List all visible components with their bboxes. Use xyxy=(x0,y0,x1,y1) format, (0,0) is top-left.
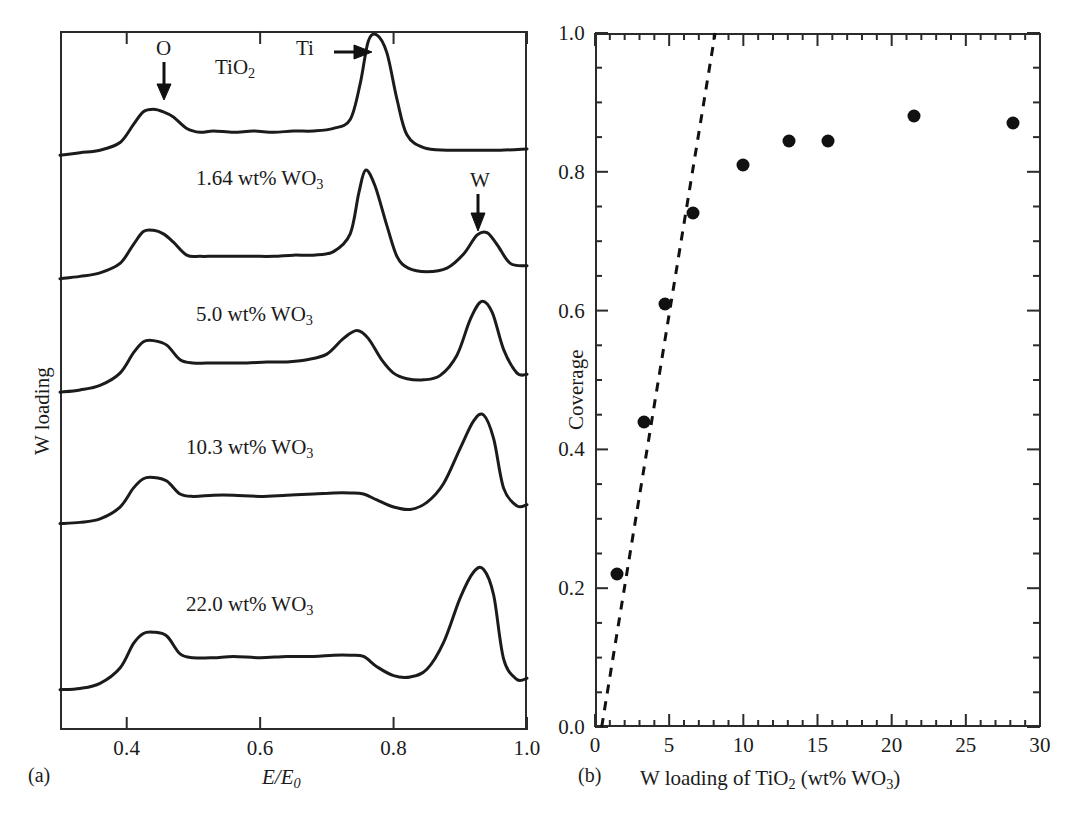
figure-root: O Ti W TiO2 1.64 wt% WO3 5.0 wt% WO3 10.… xyxy=(0,0,1070,824)
panel-a-xlabel: E/E0 xyxy=(262,765,301,792)
trace-label-text: TiO xyxy=(215,55,248,79)
panel-b-ytick-label: 1.0 xyxy=(558,21,585,46)
trace-label-text: 10.3 wt% WO xyxy=(186,435,306,459)
data-point xyxy=(686,207,699,220)
data-point xyxy=(737,158,750,171)
trace-label-sub: 3 xyxy=(316,176,323,192)
panel-a-plot-frame xyxy=(60,31,527,730)
panel-a-xtick-label: 0.6 xyxy=(247,736,274,761)
trace-label-sub: 3 xyxy=(306,445,313,461)
panel-b-ytick-label: 0.0 xyxy=(558,715,585,740)
data-point xyxy=(907,110,920,123)
panel-b-xlabel: W loading of TiO2 (wt% WO3) xyxy=(640,766,900,793)
panel-a-tag: (a) xyxy=(28,764,50,787)
trace-label-220: 22.0 wt% WO3 xyxy=(186,592,314,619)
panel-b-xtick-label: 5 xyxy=(664,733,675,758)
panel-b: 0.00.20.40.60.81.0 051015202530 Coverage… xyxy=(540,0,1070,800)
annotation-w-label: W xyxy=(470,168,490,193)
data-point xyxy=(658,297,671,310)
data-point xyxy=(821,134,834,147)
annotation-ti-label: Ti xyxy=(296,36,314,61)
trace-label-tio2: TiO2 xyxy=(215,55,255,82)
panel-b-ytick-label: 0.2 xyxy=(558,576,585,601)
panel-b-xlabel-sub1: 2 xyxy=(788,776,795,792)
trace-label-text: 22.0 wt% WO xyxy=(186,592,306,616)
panel-b-xtick-label: 20 xyxy=(881,733,902,758)
panel-b-ytick-label: 0.8 xyxy=(558,159,585,184)
data-point xyxy=(611,568,624,581)
panel-b-xtick-label: 15 xyxy=(807,733,828,758)
trace-label-text: 1.64 wt% WO xyxy=(196,166,316,190)
trace-label-164: 1.64 wt% WO3 xyxy=(196,166,324,193)
trace-label-sub: 3 xyxy=(306,602,313,618)
trace-label-sub: 2 xyxy=(248,65,255,81)
panel-b-xlabel-part3: ) xyxy=(893,766,900,790)
trace-label-text: 5.0 wt% WO xyxy=(196,302,306,326)
panel-b-xtick-label: 10 xyxy=(733,733,754,758)
panel-a-xtick-label: 0.4 xyxy=(113,736,140,761)
trace-label-50: 5.0 wt% WO3 xyxy=(196,302,313,329)
panel-a-xtick-label: 0.8 xyxy=(380,736,407,761)
data-point xyxy=(1007,117,1020,130)
panel-b-plot-frame xyxy=(595,33,1041,727)
panel-b-tag: (b) xyxy=(578,764,601,787)
data-point xyxy=(783,134,796,147)
panel-b-xtick-label: 0 xyxy=(590,733,601,758)
data-point xyxy=(637,415,650,428)
panel-b-ytick-label: 0.4 xyxy=(558,437,585,462)
panel-b-xtick-label: 25 xyxy=(955,733,976,758)
panel-b-xlabel-part2: (wt% WO xyxy=(796,766,887,790)
trace-label-sub: 3 xyxy=(306,312,313,328)
panel-a-xlabel-sub: 0 xyxy=(294,775,301,791)
panel-a-xlabel-text: E/E xyxy=(262,765,294,789)
annotation-o-label: O xyxy=(156,36,171,61)
panel-b-xlabel-part1: W loading of TiO xyxy=(640,766,788,790)
panel-a-xtick-label: 1.0 xyxy=(514,736,541,761)
trace-label-103: 10.3 wt% WO3 xyxy=(186,435,314,462)
panel-b-ytick-label: 0.6 xyxy=(558,298,585,323)
panel-a-ylabel: W loading xyxy=(30,367,55,455)
panel-a: O Ti W TiO2 1.64 wt% WO3 5.0 wt% WO3 10.… xyxy=(0,0,560,800)
panel-b-xtick-label: 30 xyxy=(1029,733,1050,758)
panel-b-ylabel: Coverage xyxy=(564,350,589,430)
